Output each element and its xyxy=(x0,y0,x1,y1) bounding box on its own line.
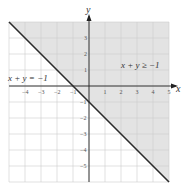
region-label: x + y ≥ −1 xyxy=(120,60,160,70)
x-tick-label: 4 xyxy=(152,89,155,95)
y-tick-label: −4 xyxy=(80,147,86,153)
y-tick-label: −1 xyxy=(80,99,86,105)
x-tick-label: 2 xyxy=(120,89,123,95)
y-tick-label: 3 xyxy=(84,35,87,41)
y-axis-arrow-icon xyxy=(87,14,92,21)
boundary-label: x + y = −1 xyxy=(7,73,48,83)
y-axis-label: y xyxy=(85,4,91,15)
y-tick-label: 2 xyxy=(84,51,87,57)
y-tick-label: −2 xyxy=(80,115,86,121)
x-tick-label: −2 xyxy=(54,89,60,95)
y-tick-label: 1 xyxy=(84,67,87,73)
x-tick-label: −3 xyxy=(38,89,44,95)
y-tick-label: −3 xyxy=(80,131,86,137)
x-tick-label: −4 xyxy=(22,89,28,95)
y-tick-label: −5 xyxy=(80,163,86,169)
x-tick-label: −1 xyxy=(70,89,76,95)
x-tick-label: 5 xyxy=(168,89,171,95)
x-tick-label: 3 xyxy=(136,89,139,95)
inequality-graph: x y x + y = −1 x + y ≥ −1 −4−3−2−112345 … xyxy=(0,0,184,194)
x-tick-label: 1 xyxy=(104,89,107,95)
x-axis-label: x xyxy=(175,83,181,94)
